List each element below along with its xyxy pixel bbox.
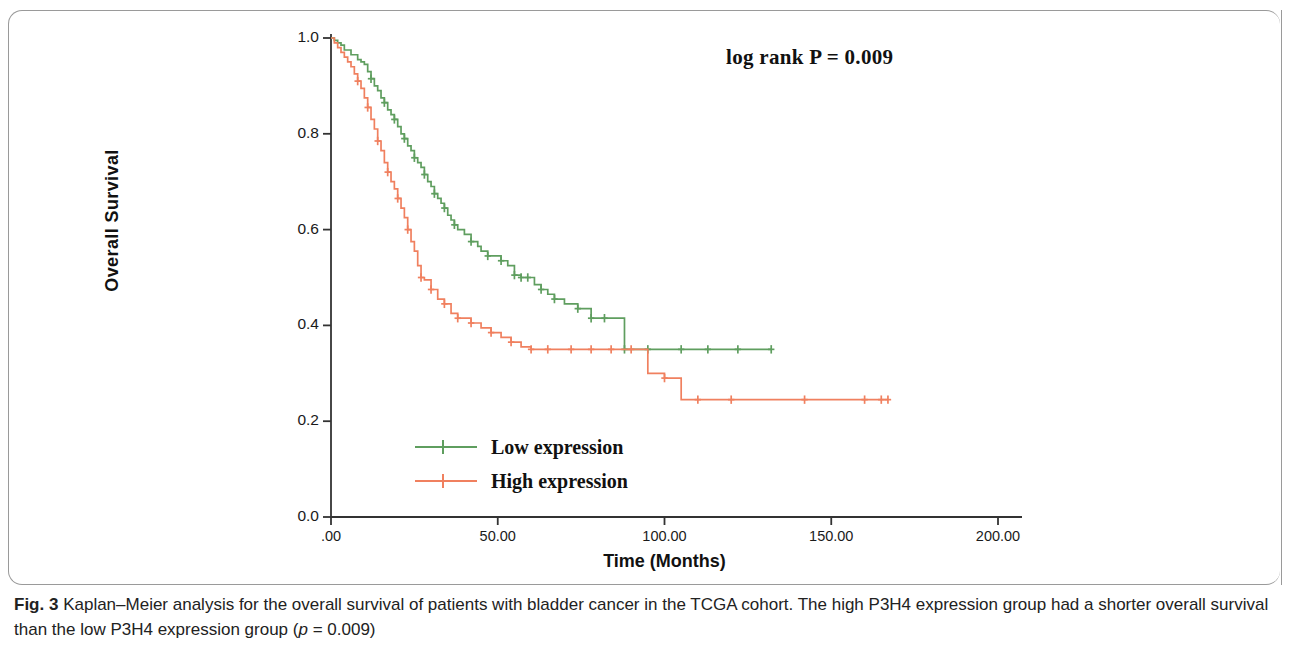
legend-item: Low expression xyxy=(415,430,628,464)
caption-part-1: Kaplan–Meier analysis for the overall su… xyxy=(14,595,1268,639)
legend-item: High expression xyxy=(415,464,628,498)
log-rank-annotation: log rank P = 0.009 xyxy=(726,45,893,70)
chart-legend: Low expressionHigh expression xyxy=(415,430,628,498)
caption-italic-p: p xyxy=(298,620,307,639)
figure-number: Fig. 3 xyxy=(14,595,58,614)
legend-line-marker-icon xyxy=(415,474,477,488)
legend-label: Low expression xyxy=(491,436,623,459)
caption-part-2: = 0.009) xyxy=(308,620,376,639)
legend-label: High expression xyxy=(491,470,628,493)
kaplan-meier-chart: Overall Survival Time (Months) 0.00.20.4… xyxy=(0,0,1290,560)
plot-canvas xyxy=(0,0,1290,560)
figure-caption: Fig. 3 Kaplan–Meier analysis for the ove… xyxy=(14,592,1276,642)
legend-line-marker-icon xyxy=(415,440,477,454)
